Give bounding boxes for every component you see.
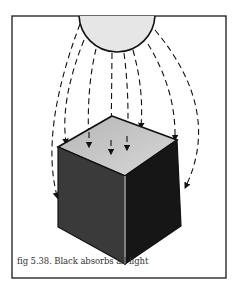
figure-diagram — [0, 0, 238, 288]
figure-caption: fig 5.38. Black absorbs all light — [17, 256, 148, 266]
